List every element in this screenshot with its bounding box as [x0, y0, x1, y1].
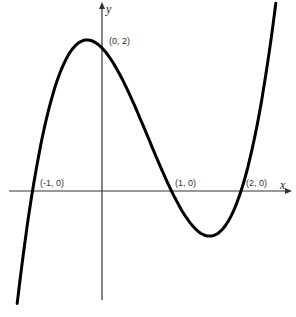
cubic-curve	[17, 3, 276, 303]
y-axis-arrow-icon	[99, 2, 105, 9]
x-axis-arrow-icon	[285, 188, 292, 194]
point-label-neg1-0: (-1, 0)	[40, 178, 64, 188]
x-axis-label: x	[279, 178, 286, 192]
point-label-1-0: (1, 0)	[175, 178, 196, 188]
cubic-graph: y x (-1, 0) (0, 2) (1, 0) (2, 0)	[0, 0, 296, 317]
point-label-2-0: (2, 0)	[246, 178, 267, 188]
y-axis-label: y	[105, 2, 112, 16]
point-label-0-2: (0, 2)	[109, 36, 130, 46]
